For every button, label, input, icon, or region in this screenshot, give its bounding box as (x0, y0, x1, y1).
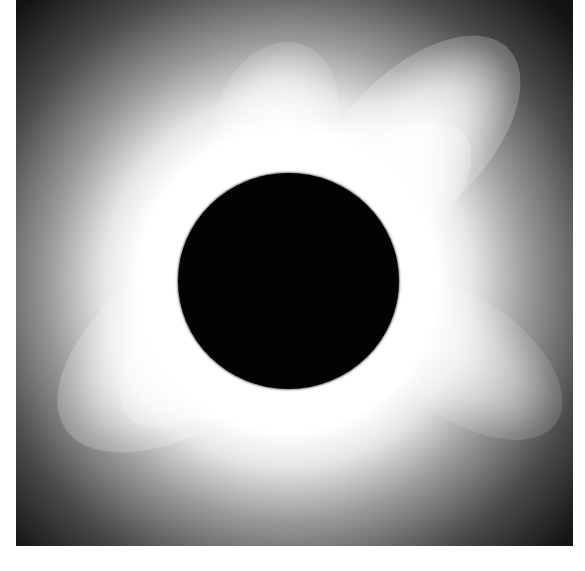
eclipse-photo (16, 0, 573, 546)
moon-disk (178, 173, 399, 389)
